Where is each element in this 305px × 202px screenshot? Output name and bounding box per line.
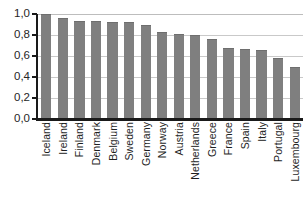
bar-slot	[207, 14, 217, 119]
x-tick-label: Austria	[174, 122, 185, 155]
bar-slot	[91, 14, 101, 119]
bar-slot	[223, 14, 233, 119]
x-tick-label: Portugal	[273, 122, 284, 162]
y-tick-label: 0,4	[14, 71, 30, 83]
bar[interactable]	[256, 50, 266, 119]
x-tick-label: Belgium	[108, 122, 119, 161]
bar[interactable]	[207, 39, 217, 119]
bars-layer	[38, 14, 303, 119]
bar[interactable]	[157, 32, 167, 119]
y-tick-label: 0,8	[14, 29, 30, 41]
y-tick-mark	[32, 97, 37, 99]
y-tick-label: 1,0	[14, 8, 30, 20]
x-tick-label: Norway	[157, 122, 168, 158]
bar[interactable]	[174, 34, 184, 119]
bar[interactable]	[290, 67, 300, 120]
x-tick-label: France	[223, 122, 234, 155]
y-tick-mark	[32, 13, 37, 15]
x-axis-line	[36, 118, 303, 121]
y-tick-mark	[32, 76, 37, 78]
x-axis-category-labels: IcelandIrelandFinlandDenmarkBelgiumSwede…	[38, 122, 303, 202]
y-tick-label: 0,0	[14, 113, 30, 125]
x-tick-label: Luxembourg	[290, 122, 301, 181]
bar[interactable]	[107, 22, 117, 119]
bar[interactable]	[240, 49, 250, 119]
x-tick-label: Greece	[207, 122, 218, 157]
bar-slot	[256, 14, 266, 119]
x-tick-label: Denmark	[91, 122, 102, 165]
bar[interactable]	[74, 21, 84, 119]
bar-slot	[240, 14, 250, 119]
bar[interactable]	[223, 48, 233, 119]
bar[interactable]	[58, 18, 68, 119]
bar-slot	[58, 14, 68, 119]
bar-slot	[124, 14, 134, 119]
bar-chart: 1,00,80,60,40,20,0 IcelandIrelandFinland…	[0, 0, 305, 202]
y-tick-mark	[32, 55, 37, 57]
x-tick-label: Ireland	[58, 122, 69, 155]
y-tick-mark	[32, 34, 37, 36]
bar[interactable]	[190, 35, 200, 119]
x-tick-label: Spain	[240, 122, 251, 149]
bar-slot	[190, 14, 200, 119]
bar[interactable]	[41, 14, 51, 119]
bar-slot	[273, 14, 283, 119]
x-tick-label: Sweden	[124, 122, 135, 161]
x-tick-label: Italy	[257, 122, 268, 142]
bar-slot	[74, 14, 84, 119]
y-tick-label: 0,2	[14, 92, 30, 104]
bar-slot	[174, 14, 184, 119]
bar[interactable]	[91, 21, 101, 119]
bar-slot	[157, 14, 167, 119]
bar[interactable]	[273, 58, 283, 119]
bar-slot	[290, 14, 300, 119]
x-tick-label: Finland	[74, 122, 85, 157]
bar-slot	[141, 14, 151, 119]
y-axis-tick-labels: 1,00,80,60,40,20,0	[0, 0, 34, 125]
y-tick-mark	[32, 118, 37, 120]
x-tick-label: Netherlands	[190, 122, 201, 180]
bar[interactable]	[141, 25, 151, 120]
bar[interactable]	[124, 22, 134, 119]
x-tick-label: Iceland	[41, 122, 52, 157]
bar-slot	[107, 14, 117, 119]
bar-slot	[41, 14, 51, 119]
y-tick-label: 0,6	[14, 50, 30, 62]
x-tick-label: Germany	[141, 122, 152, 166]
